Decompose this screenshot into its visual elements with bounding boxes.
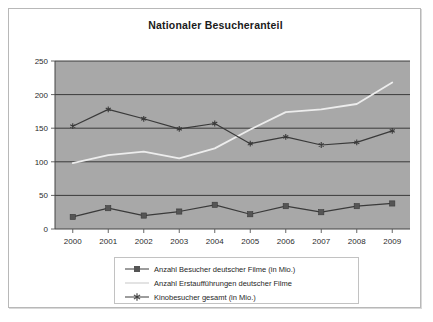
data-point-marker	[177, 209, 182, 214]
x-axis-tick-label: 2008	[348, 237, 366, 246]
legend-marker-square-icon	[124, 263, 150, 275]
x-axis-tick-label: 2007	[312, 237, 330, 246]
data-point-marker	[354, 204, 359, 209]
y-axis-tick-label: 0	[44, 225, 49, 234]
legend-label: Anzahl Besucher deutscher Filme (in Mio.…	[154, 265, 295, 274]
legend-item-erstauffuehrungen[interactable]: Anzahl Erstaufführungen deutscher Filme	[115, 276, 358, 290]
legend-item-kinobesucher-gesamt[interactable]: Kinobesucher gesamt (in Mio.)	[115, 290, 358, 304]
x-axis-tick-label: 2005	[241, 237, 259, 246]
y-axis-tick-label: 200	[35, 91, 49, 100]
y-axis-tick-label: 50	[39, 191, 48, 200]
legend-label: Kinobesucher gesamt (in Mio.)	[154, 293, 256, 302]
legend-marker-line-icon	[124, 277, 150, 289]
x-axis-tick-label: 2001	[99, 237, 117, 246]
data-point-marker	[212, 202, 217, 207]
y-axis-tick-label: 100	[35, 158, 49, 167]
legend-marker-star-icon	[124, 291, 150, 303]
x-axis-tick-label: 2003	[170, 237, 188, 246]
data-point-marker	[248, 212, 253, 217]
data-point-marker	[319, 210, 324, 215]
legend-label: Anzahl Erstaufführungen deutscher Filme	[154, 279, 292, 288]
x-axis-tick-label: 2004	[206, 237, 224, 246]
data-point-marker	[390, 201, 395, 206]
chart-container: Nationaler Besucheranteil 05010015020025…	[8, 8, 421, 308]
y-axis-tick-label: 150	[35, 124, 49, 133]
data-point-marker	[283, 204, 288, 209]
y-axis-tick-label: 250	[35, 57, 49, 66]
x-axis-tick-label: 2006	[277, 237, 295, 246]
legend-item-besucher-deutscher-filme[interactable]: Anzahl Besucher deutscher Filme (in Mio.…	[115, 262, 358, 276]
x-axis-tick-label: 2000	[64, 237, 82, 246]
x-axis-tick-label: 2002	[135, 237, 153, 246]
chart-legend: Anzahl Besucher deutscher Filme (in Mio.…	[114, 257, 359, 304]
x-axis-tick-label: 2009	[383, 237, 401, 246]
data-point-marker	[141, 213, 146, 218]
data-point-marker	[70, 214, 75, 219]
data-point-marker	[106, 206, 111, 211]
